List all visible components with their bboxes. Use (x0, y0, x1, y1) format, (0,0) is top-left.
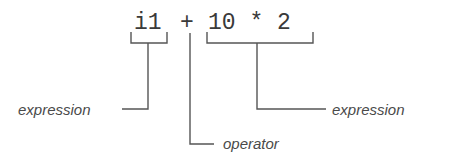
right-operand-leader (257, 43, 326, 109)
code-right-operand: 10 * 2 (208, 10, 291, 36)
label-left-expression: expression (18, 101, 91, 118)
code-operator: + (180, 10, 194, 36)
operator-leader (190, 33, 214, 144)
expression-diagram: i1 + 10 * 2 expression operator expressi… (0, 0, 449, 165)
left-operand-leader (122, 43, 148, 109)
code-left-operand: i1 (134, 10, 162, 36)
label-operator: operator (223, 135, 280, 152)
label-right-expression: expression (332, 101, 405, 118)
